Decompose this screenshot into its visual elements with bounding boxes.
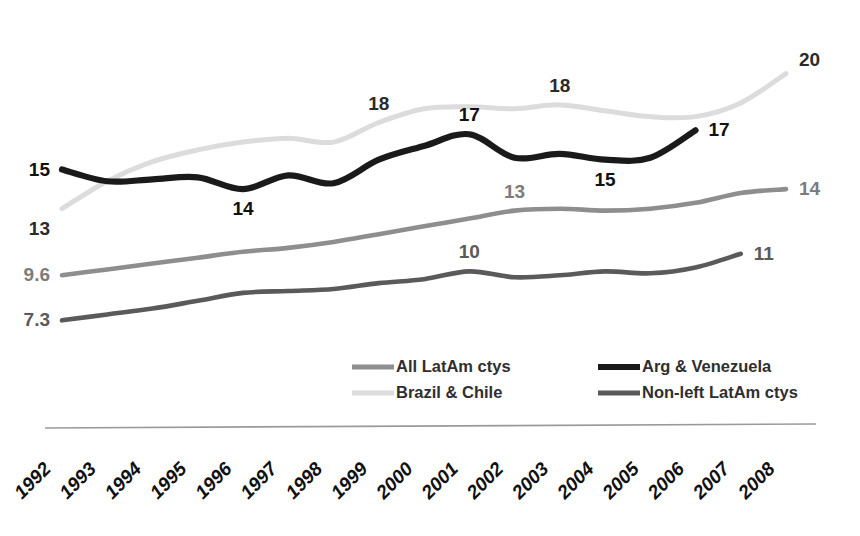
value-label-non-left-latam-ctys-start: 7.3 xyxy=(24,309,50,330)
x-tick-label-2006: 2006 xyxy=(643,458,689,504)
x-tick-label-1999: 1999 xyxy=(327,458,372,503)
x-tick-label-1997: 1997 xyxy=(236,457,282,503)
x-axis-tick-labels: 1992199319941995199619971998199920002001… xyxy=(10,457,779,503)
value-label-layer: 9.614131320181815171417157.31110 xyxy=(24,49,821,331)
x-tick-label-2007: 2007 xyxy=(688,457,734,503)
x-tick-label-1994: 1994 xyxy=(100,458,145,503)
x-tick-label-1992: 1992 xyxy=(10,458,55,503)
legend-label-non-left-latam-ctys: Non-left LatAm ctys xyxy=(642,383,798,401)
value-label-non-left-latam-ctys-end: 11 xyxy=(754,243,775,264)
legend-label-all-latam-ctys: All LatAm ctys xyxy=(396,357,511,375)
legend-item-non-left-latam-ctys[interactable]: Non-left LatAm ctys xyxy=(598,383,798,401)
value-label-arg-venezuela-start: 15 xyxy=(29,159,51,180)
x-tick-label-1993: 1993 xyxy=(55,458,100,503)
value-label-brazil-chile-end: 20 xyxy=(799,49,820,70)
value-label-all-latam-ctys-start: 9.6 xyxy=(24,264,50,285)
x-tick-label-2001: 2001 xyxy=(417,458,462,503)
legend-item-all-latam-ctys[interactable]: All LatAm ctys xyxy=(352,357,511,375)
x-axis-line xyxy=(45,424,816,428)
x-tick-label-1996: 1996 xyxy=(191,458,236,503)
legend-item-arg-venezuela[interactable]: Arg & Venezuela xyxy=(598,357,772,375)
x-tick-label-1995: 1995 xyxy=(146,458,191,503)
line-chart-canvas: 9.614131320181815171417157.31110 1992199… xyxy=(0,0,860,536)
x-tick-label-1998: 1998 xyxy=(281,458,326,503)
legend-label-brazil-chile: Brazil & Chile xyxy=(396,383,502,401)
x-tick-label-2004: 2004 xyxy=(552,458,598,504)
chart-figure: 9.614131320181815171417157.31110 1992199… xyxy=(0,0,860,536)
value-label-all-latam-ctys-mid-0: 13 xyxy=(504,181,525,202)
x-tick-label-2005: 2005 xyxy=(598,458,644,504)
series-line-all-latam-ctys xyxy=(62,189,786,275)
legend-item-brazil-chile[interactable]: Brazil & Chile xyxy=(352,383,502,401)
x-tick-label-2000: 2000 xyxy=(371,458,417,504)
series-layer xyxy=(62,74,786,321)
x-tick-label-2002: 2002 xyxy=(462,458,508,504)
value-label-brazil-chile-start: 13 xyxy=(29,218,50,239)
x-tick-label-2003: 2003 xyxy=(507,458,553,504)
x-tick-label-2008: 2008 xyxy=(733,458,779,504)
legend-label-arg-venezuela: Arg & Venezuela xyxy=(642,357,772,375)
value-label-brazil-chile-mid-1: 18 xyxy=(549,75,570,96)
value-label-all-latam-ctys-end: 14 xyxy=(799,178,821,199)
chart-legend: All LatAm ctysBrazil & ChileArg & Venezu… xyxy=(352,357,798,401)
value-label-arg-venezuela-mid-0: 14 xyxy=(232,198,254,219)
value-label-arg-venezuela-mid-1: 17 xyxy=(459,104,480,125)
value-label-arg-venezuela-end: 17 xyxy=(709,119,730,140)
value-label-arg-venezuela-mid-2: 15 xyxy=(594,169,616,190)
value-label-non-left-latam-ctys-mid-0: 10 xyxy=(459,241,480,262)
value-label-brazil-chile-mid-0: 18 xyxy=(368,93,389,114)
